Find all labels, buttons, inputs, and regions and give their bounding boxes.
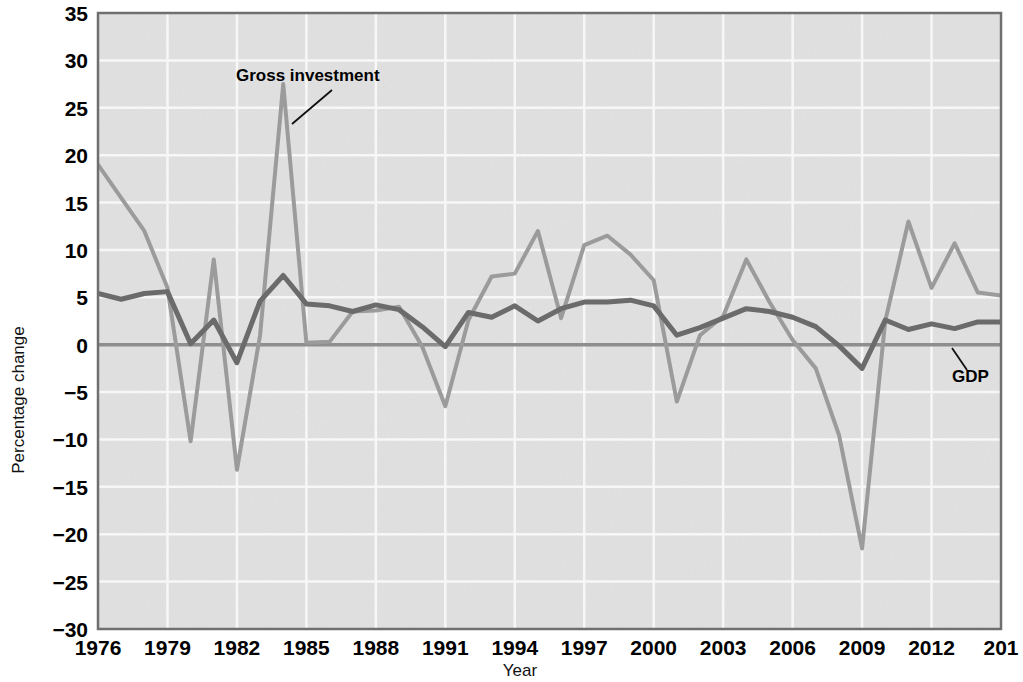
x-tick-label: 2009	[839, 636, 886, 659]
gross-investment-label: Gross investment	[236, 66, 380, 85]
x-tick-label: 1988	[352, 636, 399, 659]
y-tick-label: 20	[65, 144, 88, 167]
y-tick-label: −15	[52, 476, 88, 499]
x-tick-label: 2000	[630, 636, 677, 659]
x-tick-label: 1979	[144, 636, 191, 659]
y-tick-label: 5	[76, 286, 88, 309]
y-tick-label: 30	[65, 49, 88, 72]
chart-container: 35302520151050−5−10−15−20−25−30 19761979…	[0, 0, 1023, 682]
y-tick-label: −20	[52, 523, 88, 546]
y-tick-label: −5	[64, 381, 88, 404]
x-tick-label: 2003	[700, 636, 747, 659]
x-tick-label: 1976	[75, 636, 122, 659]
x-axis-title: Year	[503, 661, 538, 680]
y-tick-label: 0	[76, 334, 88, 357]
y-axis-title: Percentage change	[9, 326, 28, 473]
x-tick-label: 1994	[491, 636, 538, 659]
y-tick-label: 15	[65, 192, 89, 215]
paper-texture-overlay	[98, 13, 1001, 629]
y-tick-label: 10	[65, 239, 88, 262]
percentage-change-line-chart: 35302520151050−5−10−15−20−25−30 19761979…	[0, 0, 1023, 682]
x-tick-label: 201	[983, 636, 1018, 659]
y-tick-label: −10	[52, 428, 88, 451]
y-tick-label: 25	[65, 97, 89, 120]
x-tick-label: 1991	[422, 636, 469, 659]
y-tick-label: 35	[65, 2, 89, 25]
plot-area	[98, 13, 1001, 629]
x-tick-label: 2006	[769, 636, 816, 659]
x-tick-label: 2012	[908, 636, 955, 659]
y-tick-label: −25	[52, 571, 88, 594]
gdp-label: GDP	[952, 367, 989, 386]
x-tick-label: 1982	[214, 636, 261, 659]
x-tick-label: 1985	[283, 636, 330, 659]
x-tick-label: 1997	[561, 636, 608, 659]
